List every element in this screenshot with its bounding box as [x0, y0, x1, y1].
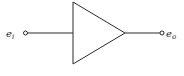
- input-label: ei: [6, 28, 14, 41]
- input-terminal-icon: [24, 31, 28, 35]
- output-terminal-icon: [160, 31, 164, 35]
- amplifier-diagram: ei eo: [0, 0, 184, 76]
- amplifier-triangle-icon: [73, 2, 125, 64]
- output-label: eo: [166, 28, 176, 41]
